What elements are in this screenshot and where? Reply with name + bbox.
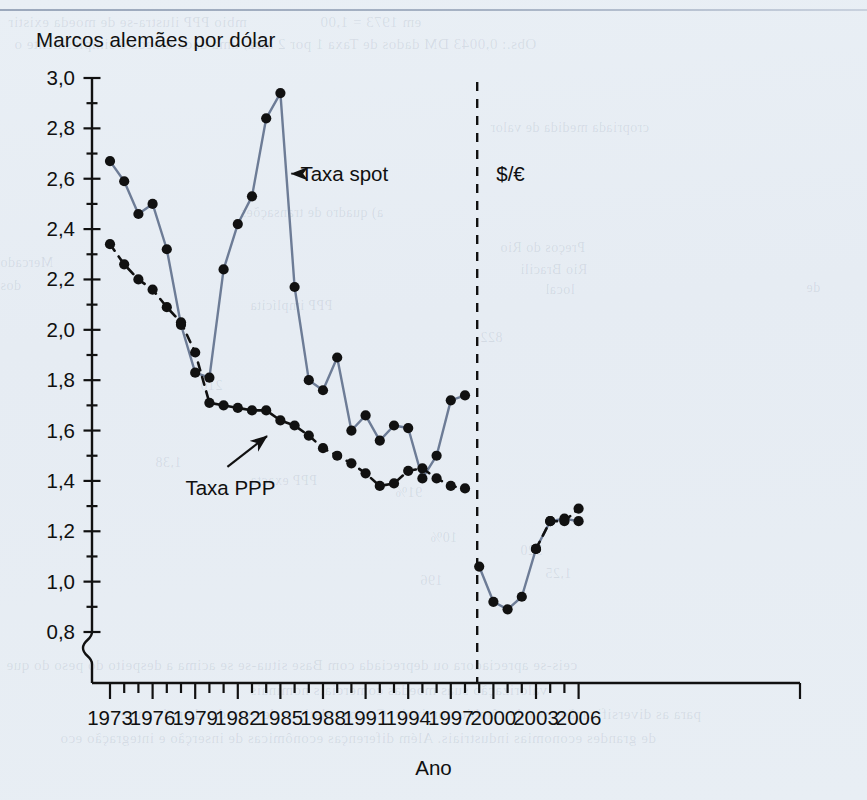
data-point xyxy=(531,544,541,554)
annotations-group: Taxa spotTaxa PPP$/€ xyxy=(185,82,525,683)
data-point xyxy=(148,284,158,294)
data-point xyxy=(517,592,527,602)
data-point xyxy=(261,113,271,123)
data-point xyxy=(559,516,569,526)
data-point xyxy=(204,373,214,383)
data-point xyxy=(148,199,158,209)
data-point xyxy=(275,88,285,98)
data-point xyxy=(460,483,470,493)
data-point xyxy=(233,403,243,413)
data-point xyxy=(304,375,314,385)
y-tick-label: 2,4 xyxy=(47,217,76,240)
x-tick-label: 2003 xyxy=(513,706,559,729)
series-line-3 xyxy=(536,509,579,549)
data-point xyxy=(176,317,186,327)
y-tick-label: 1,6 xyxy=(47,419,76,442)
y-tick-label: 1,0 xyxy=(47,570,76,593)
data-point xyxy=(432,473,442,483)
data-point xyxy=(332,451,342,461)
chart-plot: 3,02,82,62,42,22,01,81,61,41,21,00,81973… xyxy=(0,0,867,800)
data-point xyxy=(432,451,442,461)
y-tick-label: 1,8 xyxy=(47,368,76,391)
data-point xyxy=(290,282,300,292)
x-tick-label: 2000 xyxy=(471,706,517,729)
figure-page: mbio PPP ilustra-se de moeda existirara,… xyxy=(0,0,867,800)
data-point xyxy=(247,191,257,201)
data-point xyxy=(318,443,328,453)
series-line-1 xyxy=(110,244,465,488)
data-point xyxy=(346,425,356,435)
series-line-2 xyxy=(479,519,578,610)
data-point xyxy=(105,156,115,166)
data-point xyxy=(190,347,200,357)
ppp-annotation-arrow xyxy=(227,436,267,467)
x-tick-label: 1994 xyxy=(385,706,431,729)
x-tick-label: 2006 xyxy=(556,706,602,729)
data-point xyxy=(261,405,271,415)
data-point xyxy=(361,410,371,420)
x-tick-label: 1988 xyxy=(300,706,346,729)
data-point xyxy=(375,436,385,446)
data-point xyxy=(389,420,399,430)
series-line-0 xyxy=(110,93,465,478)
data-point xyxy=(290,420,300,430)
y-tick-label: 2,8 xyxy=(47,116,76,139)
y-tick-label: 1,4 xyxy=(47,469,76,492)
data-point xyxy=(488,597,498,607)
data-point xyxy=(304,430,314,440)
data-point xyxy=(403,466,413,476)
data-point xyxy=(105,239,115,249)
y-tick-label: 2,6 xyxy=(47,167,76,190)
ppp-annotation-label: Taxa PPP xyxy=(185,476,275,499)
data-point xyxy=(417,473,427,483)
x-tick-label: 1985 xyxy=(258,706,304,729)
y-tick-label: 0,8 xyxy=(47,620,76,643)
data-point xyxy=(574,516,584,526)
data-point xyxy=(403,423,413,433)
spot-annotation-label: Taxa spot xyxy=(300,162,388,185)
x-tick-label: 1997 xyxy=(428,706,474,729)
data-point xyxy=(162,244,172,254)
data-point xyxy=(417,463,427,473)
data-point xyxy=(446,395,456,405)
data-point xyxy=(133,209,143,219)
y-axis-break-symbol xyxy=(83,632,92,683)
x-tick-label: 1991 xyxy=(343,706,389,729)
data-point xyxy=(133,274,143,284)
data-point xyxy=(389,478,399,488)
x-tick-label: 1982 xyxy=(215,706,261,729)
data-point xyxy=(275,415,285,425)
data-point xyxy=(361,468,371,478)
x-tick-label: 1973 xyxy=(87,706,133,729)
data-point xyxy=(204,398,214,408)
data-point xyxy=(318,385,328,395)
data-point xyxy=(375,481,385,491)
y-tick-label: 2,0 xyxy=(47,318,76,341)
data-point xyxy=(503,604,513,614)
data-point xyxy=(247,405,257,415)
axes-group: 3,02,82,62,42,22,01,81,61,41,21,00,81973… xyxy=(47,66,801,729)
chart-axis-title-x: Ano xyxy=(0,756,867,780)
data-point xyxy=(346,458,356,468)
y-tick-label: 2,2 xyxy=(47,267,76,290)
data-point xyxy=(332,352,342,362)
data-point xyxy=(233,219,243,229)
y-tick-label: 3,0 xyxy=(47,66,76,89)
x-tick-label: 1979 xyxy=(172,706,218,729)
data-point xyxy=(574,504,584,514)
regime-label-euro: $/€ xyxy=(496,162,525,185)
data-point xyxy=(119,176,129,186)
data-point xyxy=(545,516,555,526)
data-point xyxy=(162,302,172,312)
data-point xyxy=(460,390,470,400)
data-point xyxy=(446,481,456,491)
y-tick-label: 1,2 xyxy=(47,519,76,542)
data-point xyxy=(219,264,229,274)
x-tick-label: 1976 xyxy=(130,706,176,729)
data-point xyxy=(474,561,484,571)
data-point xyxy=(219,400,229,410)
data-point xyxy=(119,259,129,269)
